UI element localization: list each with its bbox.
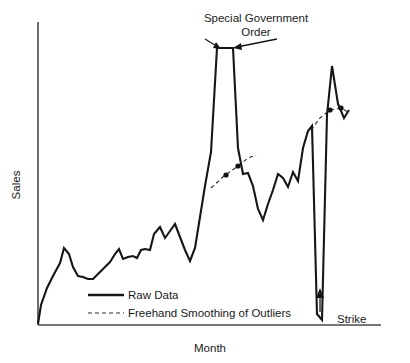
order-arrow-right-head bbox=[233, 43, 242, 50]
annotation-special-government-order: Special Government Order bbox=[204, 12, 309, 50]
legend-label-smoothing: Freehand Smoothing of Outliers bbox=[128, 307, 291, 319]
chart-figure: Sales Month Special Government Order Str bbox=[0, 0, 410, 363]
strike-annotation-label: Strike bbox=[337, 313, 366, 325]
legend-label-raw-data: Raw Data bbox=[128, 289, 179, 301]
order-annotation-line1: Special Government bbox=[204, 12, 309, 24]
smoothing-marker bbox=[223, 172, 228, 177]
legend-item-raw-data: Raw Data bbox=[88, 289, 179, 301]
chart-legend: Raw Data Freehand Smoothing of Outliers bbox=[88, 289, 291, 319]
smoothing-segment-order bbox=[211, 155, 256, 188]
sales-outlier-line-chart: Sales Month Special Government Order Str bbox=[0, 0, 410, 363]
legend-item-smoothing: Freehand Smoothing of Outliers bbox=[88, 307, 291, 319]
y-axis-title: Sales bbox=[10, 170, 22, 199]
x-axis-title: Month bbox=[194, 342, 226, 354]
raw-data-series bbox=[38, 48, 349, 324]
smoothing-marker bbox=[235, 163, 240, 168]
order-annotation-line2: Order bbox=[241, 26, 271, 38]
order-arrow-right-line bbox=[237, 39, 277, 47]
order-arrow-left-head bbox=[213, 42, 221, 49]
